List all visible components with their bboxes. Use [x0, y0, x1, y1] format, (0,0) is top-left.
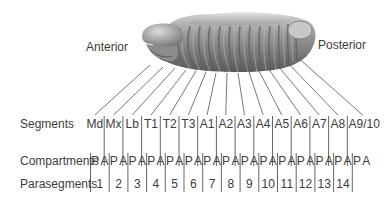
parasegment-number: 4: [147, 178, 166, 190]
anterior-compartment: A: [287, 155, 296, 167]
anterior-compartment: A: [212, 155, 221, 167]
parasegment-number: 1: [91, 178, 110, 190]
posterior-compartment: P: [334, 155, 343, 167]
anterior-compartment: A: [249, 155, 258, 167]
posterior-compartment: P: [147, 155, 156, 167]
posterior-compartment: P: [221, 155, 230, 167]
segment-label: A6: [291, 118, 310, 130]
posterior-compartment: P: [296, 155, 305, 167]
parasegment-number: 6: [184, 178, 203, 190]
posterior-compartment: P: [278, 155, 287, 167]
parasegment-number: 13: [315, 178, 334, 190]
segment-label: A7: [310, 118, 329, 130]
posterior-compartment: P: [165, 155, 174, 167]
segment-label: A3: [235, 118, 254, 130]
embryo-illustration: [0, 0, 392, 198]
anterior-compartment: A: [343, 155, 352, 167]
posterior-label: Posterior: [318, 39, 366, 51]
anterior-compartment: A: [156, 155, 165, 167]
segment-label: T3: [179, 118, 198, 130]
parasegment-number: 11: [278, 178, 297, 190]
segment-label: Md: [86, 118, 105, 130]
segment-label: Mx: [104, 118, 123, 130]
compartments-row-title: Compartments: [20, 155, 99, 167]
parasegments-row-title: Parasegments: [20, 178, 97, 190]
parasegment-number: 14: [334, 178, 353, 190]
posterior-compartment: P: [128, 155, 137, 167]
segmentation-diagram: Anterior Posterior Segments Compartments…: [0, 0, 392, 198]
segment-label: A1: [198, 118, 217, 130]
anterior-compartment: A: [137, 155, 146, 167]
posterior-compartment: P: [184, 155, 193, 167]
anterior-compartment: A: [175, 155, 184, 167]
parasegment-number: 3: [128, 178, 147, 190]
anterior-compartment: A: [362, 155, 371, 167]
parasegment-number: 5: [165, 178, 184, 190]
segment-label: Lb: [123, 118, 142, 130]
posterior-compartment: P: [352, 155, 361, 167]
posterior-compartment: P: [203, 155, 212, 167]
parasegment-number: 12: [296, 178, 315, 190]
segment-label: A9/10: [347, 118, 381, 130]
segment-label: A2: [216, 118, 235, 130]
posterior-compartment: P: [240, 155, 249, 167]
segment-label: A5: [273, 118, 292, 130]
segment-label: T2: [160, 118, 179, 130]
anterior-compartment: A: [193, 155, 202, 167]
embryo: [142, 12, 315, 72]
parasegment-number: 9: [240, 178, 259, 190]
segment-label: A4: [254, 118, 273, 130]
anterior-compartment: A: [306, 155, 315, 167]
anterior-label: Anterior: [86, 41, 128, 53]
segments-row-title: Segments: [20, 118, 74, 130]
parasegment-number: 10: [259, 178, 278, 190]
anterior-compartment: A: [268, 155, 277, 167]
segment-label: A8: [329, 118, 348, 130]
parasegment-number: 8: [221, 178, 240, 190]
posterior-compartment: P: [109, 155, 118, 167]
anterior-compartment: A: [119, 155, 128, 167]
anterior-compartment: A: [231, 155, 240, 167]
posterior-compartment: P: [315, 155, 324, 167]
segment-label: T1: [142, 118, 161, 130]
anterior-compartment: A: [324, 155, 333, 167]
posterior-compartment: P: [91, 155, 100, 167]
anterior-compartment: A: [100, 155, 109, 167]
parasegment-number: 7: [203, 178, 222, 190]
parasegment-number: 2: [109, 178, 128, 190]
posterior-compartment: P: [259, 155, 268, 167]
